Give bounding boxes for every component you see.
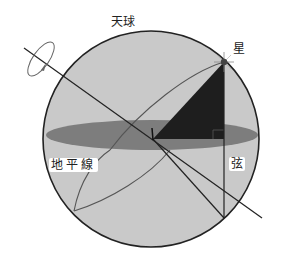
celestial-sphere-label: 天球 <box>111 16 135 28</box>
rotation-arrow-icon <box>23 38 59 80</box>
horizon-label: 地平線 <box>49 158 98 172</box>
celestial-sphere-diagram <box>0 0 282 265</box>
star-label: 星 <box>233 43 245 55</box>
chord-label: 弦 <box>229 157 245 171</box>
observer <box>152 128 153 140</box>
star-icon <box>214 52 234 72</box>
